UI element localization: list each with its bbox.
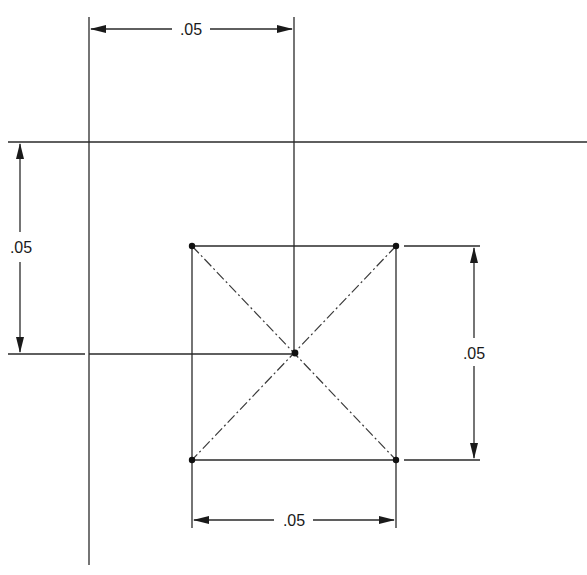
corner-point-top-left	[189, 243, 195, 249]
right-dimension-label: .05	[463, 345, 485, 362]
arrowhead-left-icon	[193, 516, 209, 524]
left-dimension: .05	[8, 143, 295, 354]
arrowhead-down-icon	[470, 443, 478, 459]
bottom-dimension: .05	[193, 512, 395, 529]
top-dimension-label: .05	[180, 21, 202, 38]
arrowhead-up-icon	[16, 143, 24, 159]
datum-lines	[8, 17, 587, 565]
right-dimension: .05	[404, 246, 485, 460]
arrowhead-right-icon	[277, 25, 293, 33]
arrowhead-up-icon	[470, 247, 478, 263]
arrowhead-right-icon	[379, 516, 395, 524]
dimension-drawing: .05 .05 .05 .05	[0, 0, 587, 575]
bottom-dimension-label: .05	[283, 512, 305, 529]
arrowhead-left-icon	[90, 25, 106, 33]
arrowhead-down-icon	[16, 337, 24, 353]
corner-point-bottom-left	[189, 457, 195, 463]
left-dimension-label: .05	[10, 239, 32, 256]
corner-point-bottom-right	[393, 457, 399, 463]
center-point	[292, 350, 299, 357]
corner-point-top-right	[393, 243, 399, 249]
